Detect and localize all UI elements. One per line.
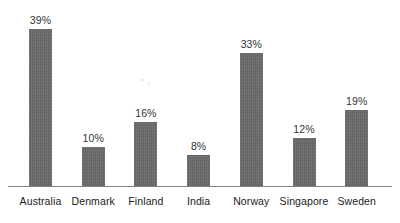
bar-value-label: 8% <box>191 140 206 152</box>
bar-group: 16% <box>119 1 172 187</box>
category-label: Denmark <box>67 194 120 208</box>
bar-group: 8% <box>172 1 225 187</box>
bar-group: 33% <box>225 1 278 187</box>
bar-column: 10% <box>67 1 120 187</box>
bar-column: 39% <box>14 1 67 187</box>
category-label: Norway <box>225 194 278 208</box>
bar-group: 10% <box>67 1 120 187</box>
bar <box>187 155 210 187</box>
bar <box>29 29 52 187</box>
bar <box>345 110 368 187</box>
bar-group: 19% <box>330 1 383 187</box>
category-label: Sweden <box>330 194 383 208</box>
bar-column: 12% <box>278 1 331 187</box>
bar <box>240 53 263 187</box>
category-axis: AustraliaDenmarkFinlandIndiaNorwaySingap… <box>0 194 400 214</box>
bar-value-label: 12% <box>293 123 314 135</box>
bar-group: 39% <box>14 1 67 187</box>
bar <box>82 147 105 188</box>
bar-chart: 39%10%16%8%33%12%19% AustraliaDenmarkFin… <box>0 0 400 223</box>
bar-value-label: 33% <box>241 38 262 50</box>
bar-column: 8% <box>172 1 225 187</box>
category-label: Finland <box>119 194 172 208</box>
bar-value-label: 39% <box>30 14 51 26</box>
bar-column: 33% <box>225 1 278 187</box>
bar <box>293 138 316 187</box>
category-label: India <box>172 194 225 208</box>
category-label: Australia <box>14 194 67 208</box>
bar-column: 19% <box>330 1 383 187</box>
bar-value-label: 16% <box>135 107 156 119</box>
bar-value-label: 10% <box>83 132 104 144</box>
category-label: Singapore <box>278 194 331 208</box>
bar-value-label: 19% <box>346 95 367 107</box>
x-axis-line <box>8 186 392 187</box>
bar-group: 12% <box>278 1 331 187</box>
bar <box>134 122 157 187</box>
bar-column: 16% <box>119 1 172 187</box>
plot-area: 39%10%16%8%33%12%19% <box>0 0 400 187</box>
